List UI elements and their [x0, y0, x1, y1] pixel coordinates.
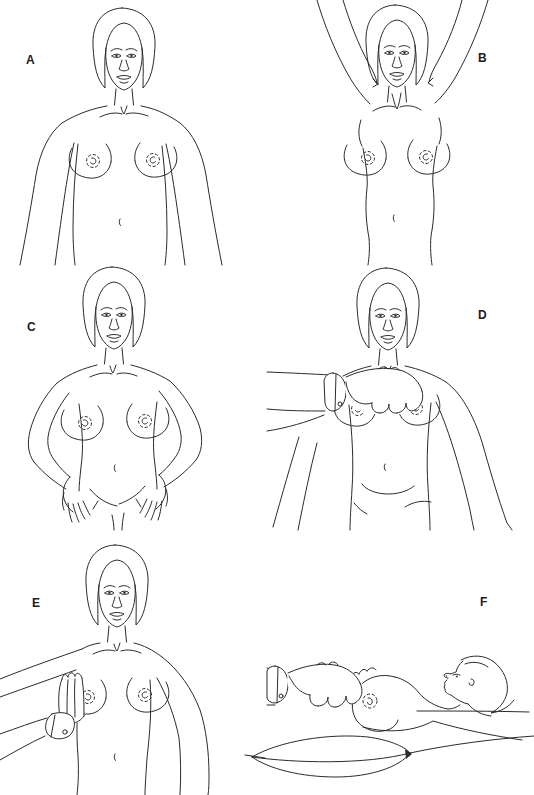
panel-d: D: [267, 265, 534, 530]
illustration-arms-raised: [267, 0, 534, 265]
panel-label-f: F: [480, 595, 488, 609]
panel-label-b: B: [478, 51, 487, 65]
illustration-palpation-standing: [267, 265, 534, 530]
illustration-hands-on-hips: [0, 265, 267, 530]
panel-label-c: C: [27, 320, 36, 334]
panel-label-e: E: [32, 596, 41, 610]
illustration-arms-at-sides: [0, 0, 267, 265]
panel-c: C: [0, 265, 267, 530]
panel-f: F: [267, 530, 534, 795]
illustration-supine-palpation: [267, 530, 534, 795]
panel-label-a: A: [26, 53, 35, 67]
panel-a: A: [0, 0, 267, 265]
medical-illustration-plate: A B: [0, 0, 534, 795]
illustration-axilla-palpation: [0, 530, 267, 795]
panel-e: E: [0, 530, 267, 795]
panel-label-d: D: [478, 308, 487, 322]
panel-b: B: [267, 0, 534, 265]
